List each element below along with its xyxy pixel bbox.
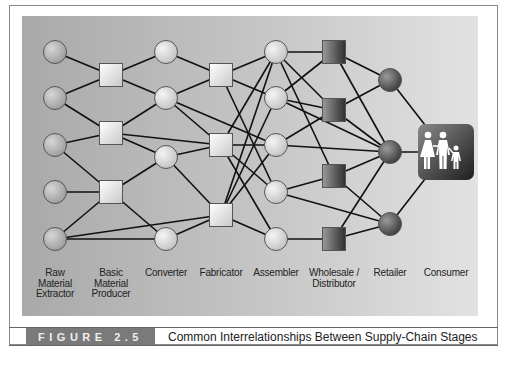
stage-label-line: Distributor <box>309 279 359 290</box>
converter-node <box>155 87 178 110</box>
stage-label-line: Retailer <box>374 268 407 279</box>
stage-label-retailer: Retailer <box>374 268 407 279</box>
stage-label-raw: RawMaterialExtractor <box>36 268 74 300</box>
stage-label-line: Converter <box>145 268 187 279</box>
stage-label-consumer: Consumer <box>424 268 469 279</box>
wholesale-node <box>323 165 346 188</box>
stage-label-fabricator: Fabricator <box>199 268 242 279</box>
raw-node <box>44 87 67 110</box>
stage-label-line: Consumer <box>424 268 469 279</box>
assembler-node <box>265 41 288 64</box>
assembler-node <box>265 134 288 157</box>
wholesale-node <box>323 41 346 64</box>
assembler-node <box>265 181 288 204</box>
stage-label-line: Basic <box>92 268 131 279</box>
raw-node <box>44 228 67 251</box>
supply-chain-network <box>0 0 511 371</box>
wholesale-node <box>323 99 346 122</box>
converter-node <box>155 146 178 169</box>
figure-number-label: FIGURE 2.5 <box>26 328 155 345</box>
wholesale-node <box>323 228 346 251</box>
raw-node <box>44 41 67 64</box>
retailer-node <box>379 69 402 92</box>
stage-label-basic: BasicMaterialProducer <box>92 268 131 300</box>
stage-label-assembler: Assembler <box>253 268 298 279</box>
converter-node <box>155 41 178 64</box>
consumer-family-icon <box>418 124 474 180</box>
fabricator-node <box>210 64 233 87</box>
basic-node <box>100 64 123 87</box>
assembler-node <box>265 87 288 110</box>
stage-label-line: Producer <box>92 289 131 300</box>
stage-label-line: Raw <box>36 268 74 279</box>
edge <box>276 145 390 152</box>
stage-label-wholesale: Wholesale /Distributor <box>309 268 359 289</box>
raw-node <box>44 181 67 204</box>
fabricator-node <box>210 204 233 227</box>
retailer-node <box>379 141 402 164</box>
stage-label-line: Assembler <box>253 268 298 279</box>
assembler-node <box>265 228 288 251</box>
stage-label-converter: Converter <box>145 268 187 279</box>
stage-label-line: Fabricator <box>199 268 242 279</box>
basic-node <box>100 122 123 145</box>
edge <box>111 133 221 145</box>
edge <box>276 192 390 224</box>
raw-node <box>44 134 67 157</box>
fabricator-node <box>210 134 233 157</box>
converter-node <box>155 228 178 251</box>
stage-label-line: Wholesale / <box>309 268 359 279</box>
retailer-node <box>379 213 402 236</box>
figure-title: Common Interrelationships Between Supply… <box>168 328 478 345</box>
basic-node <box>100 181 123 204</box>
figure-caption: FIGURE 2.5 Common Interrelationships Bet… <box>9 327 498 346</box>
stage-label-line: Extractor <box>36 289 74 300</box>
